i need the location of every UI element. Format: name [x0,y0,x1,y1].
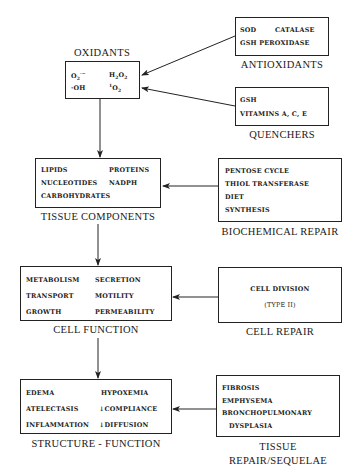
antioxidant-sod: SOD [240,26,256,34]
oxidant-hydroxyl: ·OH [71,84,85,92]
repair-pentose-cycle: PENTOSE CYCLE [225,167,289,175]
cell-growth: GROWTH [26,308,62,316]
sf-atelectasis: ATELECTASIS [26,405,78,413]
cell-function-title: CELL FUNCTION [20,324,172,335]
oxidant-singlet-oxygen: 1O2 [109,83,121,93]
antioxidant-catalase: CATALASE [275,26,315,34]
structure-function-box: EDEMA HYPOXEMIA ATELECTASIS ↓COMPLIANCE … [20,379,172,434]
cell-function-box: METABOLISM SECRETION TRANSPORT MOTILITY … [20,266,172,321]
sequelae-dysplasia: DYSPLASIA [229,422,272,430]
quenchers-title: QUENCHERS [232,129,332,140]
repair-synthesis: SYNTHESIS [225,206,270,214]
cell-repair-box: CELL DIVISION (TYPE II) [218,267,342,323]
oxidants-title: OXIDANTS [65,47,139,58]
tissue-nadph: NADPH [109,179,137,187]
arrow-quenchers-to-oxidants [142,88,235,106]
tissue-nucleotides: NUCLEOTIDES [41,179,97,187]
tissue-repair-title-line1: TISSUE [212,441,344,452]
biochemical-repair-box: PENTOSE CYCLE THIOL TRANSFERASE DIET SYN… [218,158,342,222]
tissue-carbohydrates: CARBOHYDRATES [41,192,110,200]
antioxidants-title: ANTIOXIDANTS [232,59,332,70]
tissue-repair-box: FIBROSIS EMPHYSEMA BRONCHOPULMONARY DYSP… [216,375,340,437]
cell-secretion: SECRETION [95,276,141,284]
tissue-lipids: LIPIDS [41,166,68,174]
repair-thiol-transferase: THIOL TRANSFERASE [225,180,309,188]
quenchers-box: GSH VITAMINS A, C, E [235,87,329,126]
cell-motility: MOTILITY [95,292,134,300]
biochemical-repair-title: BIOCHEMICAL REPAIR [214,226,346,237]
sf-compliance-decreased: ↓COMPLIANCE [99,405,157,413]
cell-metabolism: METABOLISM [26,276,80,284]
sf-edema: EDEMA [26,389,54,397]
cell-permeability: PERMEABILITY [95,308,154,316]
oxidant-superoxide: O2·− [71,71,86,81]
tissue-components-title: TISSUE COMPONENTS [30,211,166,222]
tissue-repair-title-line2: REPAIR/SEQUELAE [212,455,344,466]
repair-diet: DIET [225,193,244,201]
quencher-gsh: GSH [240,96,257,104]
antioxidants-box: SOD CATALASE GSH PEROXIDASE [235,17,329,56]
sequelae-fibrosis: FIBROSIS [222,384,260,392]
sf-diffusion-decreased: ↓DIFFUSION [99,421,149,429]
quencher-vitamins: VITAMINS A, C, E [240,110,307,118]
sf-inflammation: INFLAMMATION [26,421,89,429]
oxidants-box: O2·− H2O2 ·OH 1O2 [65,61,140,99]
tissue-components-box: LIPIDS PROTEINS NUCLEOTIDES NADPH CARBOH… [35,158,161,208]
structure-function-title: STRUCTURE - FUNCTION [20,438,172,449]
cell-repair-division: CELL DIVISION [219,285,341,293]
cell-repair-title: CELL REPAIR [214,326,346,337]
arrow-antioxidants-to-oxidants [142,36,235,75]
cell-repair-type-ii: (TYPE II) [219,301,341,309]
sequelae-emphysema: EMPHYSEMA [222,397,273,405]
antioxidant-gsh-peroxidase: GSH PEROXIDASE [240,39,310,47]
tissue-proteins: PROTEINS [109,166,149,174]
sequelae-bronchopulmonary: BRONCHOPULMONARY [222,409,312,417]
oxidant-hydrogen-peroxide: H2O2 [109,71,128,80]
cell-transport: TRANSPORT [26,292,74,300]
sf-hypoxemia: HYPOXEMIA [101,389,149,397]
